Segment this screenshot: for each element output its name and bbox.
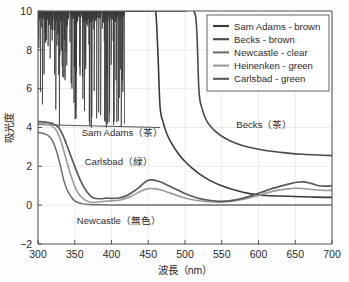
legend-label: Sam Adams - brown xyxy=(234,21,320,32)
legend-label: Becks - brown xyxy=(234,34,295,45)
y-tick-label: 2 xyxy=(26,160,32,172)
legend-label: Heinenken - green xyxy=(234,60,313,71)
x-tick-label: 600 xyxy=(250,248,268,260)
x-tick-label: 350 xyxy=(66,248,84,260)
curve-annotation: Newcastle（無色） xyxy=(77,215,161,226)
y-tick-label: 10 xyxy=(20,5,32,17)
curve-annotation: Carlsbad（緑） xyxy=(85,156,153,167)
legend-label: Newcastle - clear xyxy=(234,47,308,58)
x-tick-label: 450 xyxy=(139,248,157,260)
x-tick-label: 550 xyxy=(213,248,231,260)
legend[interactable]: Sam Adams - brownBecks - brownNewcastle … xyxy=(207,15,329,91)
curve-annotation: Sam Adams（茶） xyxy=(82,127,164,138)
y-tick-label: 8 xyxy=(26,44,32,56)
x-tick-label: 650 xyxy=(286,248,304,260)
x-tick-label: 700 xyxy=(323,248,341,260)
curve-annotation: Becks（茶） xyxy=(236,119,292,130)
y-tick-label: 4 xyxy=(26,121,32,133)
y-tick-label: 6 xyxy=(26,82,32,94)
x-tick-label: 400 xyxy=(103,248,121,260)
legend-label: Carlsbad - green xyxy=(234,73,305,84)
spectra-figure: 300350400450500550600650700−20246810波長（n… xyxy=(0,0,349,282)
y-tick-label: −2 xyxy=(20,238,32,250)
x-tick-label: 500 xyxy=(176,248,194,260)
y-tick-label: 0 xyxy=(26,199,32,211)
y-axis-label: 吸光度 xyxy=(3,112,15,143)
absorbance-chart: 300350400450500550600650700−20246810波長（n… xyxy=(0,0,349,282)
x-axis-label: 波長（nm） xyxy=(158,264,213,276)
